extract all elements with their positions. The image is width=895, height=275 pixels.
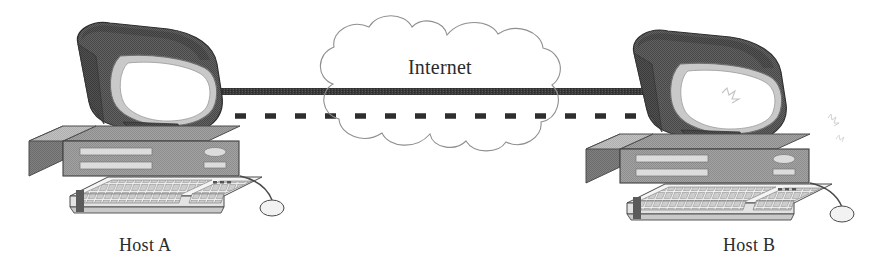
host-a-keyboard	[70, 177, 262, 213]
host-b-reset-button	[773, 169, 795, 175]
host-a-reset-button	[204, 162, 226, 168]
host-b-speckles	[828, 114, 844, 142]
host-a-case-slot-1	[80, 148, 152, 155]
host-a-keyboard-led-1	[213, 181, 217, 184]
host-b-case-slot-2	[636, 169, 708, 176]
diagram-canvas: Internet Host A Host B	[0, 0, 895, 275]
host-b-keyboard-led-3	[792, 188, 796, 191]
host-a-keyboard-numpad-lower	[189, 194, 224, 203]
network-links	[205, 92, 700, 117]
host-b-keyboard-keys-main-lower	[636, 201, 746, 210]
host-b-keyboard-foot	[633, 197, 641, 219]
host-a-keyboard-keys-main-lower	[79, 194, 182, 203]
host-a-keyboard-base	[70, 207, 224, 213]
cloud-outline-shape	[320, 16, 560, 151]
host-a-keyboard-led-2	[220, 181, 224, 184]
host-b-keyboard	[627, 184, 832, 220]
host-a-case-slot-2	[80, 162, 152, 169]
host-b-case	[586, 134, 810, 183]
host-a-computer	[29, 22, 284, 216]
host-b-computer	[586, 30, 854, 222]
host-a-power-button	[204, 148, 226, 157]
host-b-label: Host B	[723, 235, 775, 256]
host-b-keyboard-base	[627, 214, 794, 220]
host-a-case-front	[63, 141, 239, 176]
host-b-keyboard-led-2	[785, 188, 789, 191]
host-b-case-front	[620, 149, 809, 183]
host-a-keyboard-led-3	[227, 181, 231, 184]
host-a-mouse-body	[260, 200, 284, 216]
host-b-case-slot-1	[636, 155, 708, 162]
host-a-keyboard-foot	[76, 190, 84, 212]
host-b-keyboard-numpad-lower	[753, 201, 794, 210]
host-b-power-button	[773, 155, 795, 164]
internet-cloud	[320, 16, 560, 151]
host-b-mouse-body	[830, 206, 854, 222]
host-a-label: Host A	[119, 235, 171, 256]
internet-cloud-label: Internet	[408, 56, 472, 79]
host-b-keyboard-led-1	[778, 188, 782, 191]
network-diagram	[0, 0, 895, 275]
host-a-case	[29, 126, 240, 176]
